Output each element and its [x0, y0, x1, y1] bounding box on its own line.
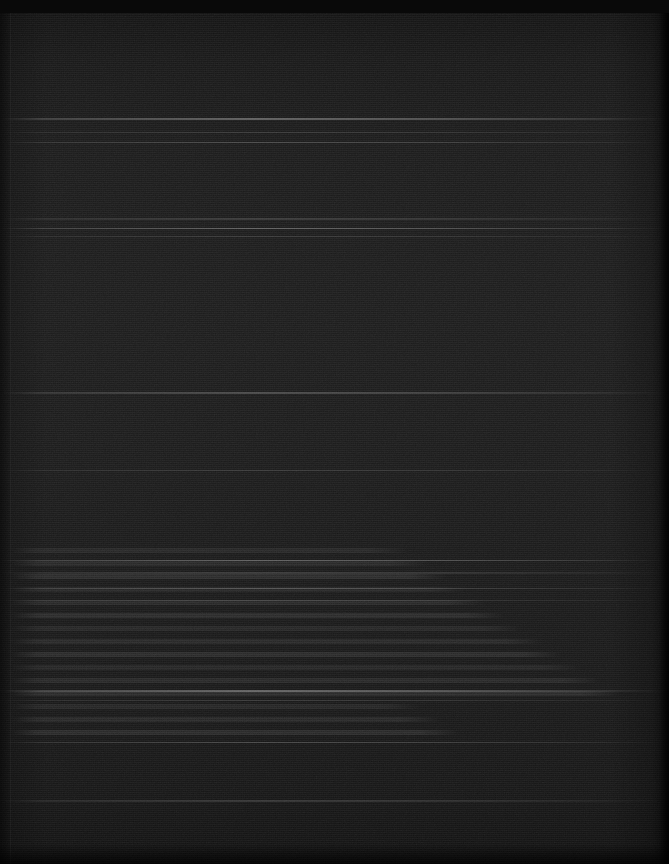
horizontal-scanline-texture: [0, 0, 669, 864]
left-margin-seam: [10, 0, 11, 864]
sensor-column-noise-texture: [0, 0, 669, 864]
scanner-streak-artifacts: [0, 0, 669, 864]
film-grain-overlay: [0, 0, 669, 864]
right-edge-shadow: [659, 0, 669, 864]
scanned-document-page: Severely underexposed near-black scan of…: [0, 0, 669, 864]
edge-vignette: [0, 0, 669, 864]
top-ragged-scan-edge: [0, 0, 669, 13]
faint-text-line-bands: [0, 0, 669, 864]
page-background: [0, 0, 669, 864]
bottom-edge-shadow: [0, 844, 669, 864]
